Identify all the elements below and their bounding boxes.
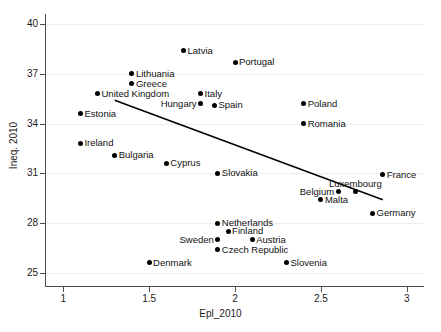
data-point-ireland[interactable] [78,141,83,146]
data-point-austria[interactable] [250,237,255,242]
gridline-y-25 [46,273,424,274]
data-point-latvia[interactable] [181,48,186,53]
y-tick-mark-37 [40,74,45,75]
point-label-italy: Italy [205,89,222,99]
data-point-cyprus[interactable] [164,161,169,166]
x-tick-label-2: 2 [220,294,250,304]
point-label-ireland: Ireland [84,138,113,148]
x-tick-label-1.5: 1.5 [134,294,164,304]
y-tick-label-37: 37 [14,69,38,79]
y-tick-label-wrap: 31 [0,168,38,178]
x-tick-mark-1.5 [149,287,150,292]
y-tick-label-40: 40 [14,19,38,29]
y-axis-title: Ineq. 2010 [8,101,19,191]
y-tick-label-wrap: 28 [0,218,38,228]
point-label-czech-republic: Czech Republic [222,245,289,255]
data-point-poland[interactable] [301,101,306,106]
point-label-latvia: Latvia [188,46,213,56]
x-axis-title: Epl_2010 [0,308,441,319]
x-tick-label-2.5: 2.5 [306,294,336,304]
y-tick-label-wrap: 40 [0,19,38,29]
fit-line [0,0,441,332]
data-point-denmark[interactable] [147,260,152,265]
data-point-united-kingdom[interactable] [95,91,100,96]
point-label-united-kingdom: United Kingdom [102,89,170,99]
y-tick-mark-25 [40,273,45,274]
y-axis-line [45,14,46,286]
point-label-spain: Spain [218,100,242,110]
x-tick-mark-1 [63,287,64,292]
y-tick-label-wrap: 34 [0,119,38,129]
data-point-estonia[interactable] [78,111,83,116]
data-point-netherlands[interactable] [215,221,220,226]
y-tick-label-wrap: 37 [0,69,38,79]
data-point-finland[interactable] [226,229,231,234]
point-label-germany: Germany [377,208,416,218]
y-tick-mark-40 [40,24,45,25]
y-tick-label-28: 28 [14,218,38,228]
y-tick-mark-31 [40,173,45,174]
point-label-malta: Malta [325,195,348,205]
data-point-lithuania[interactable] [129,71,134,76]
scatter-plot: 252831343740 11.522.53 LatviaPortugalLit… [0,0,441,332]
data-point-italy[interactable] [198,91,203,96]
x-tick-mark-2.5 [321,287,322,292]
point-label-denmark: Denmark [153,258,192,268]
y-tick-mark-34 [40,124,45,125]
point-label-poland: Poland [308,99,338,109]
point-label-romania: Romania [308,119,346,129]
point-label-text: Hungary [161,99,197,109]
point-label-cyprus: Cyprus [170,158,200,168]
data-point-slovakia[interactable] [215,171,220,176]
y-tick-label-25: 25 [14,268,38,278]
x-tick-label-3: 3 [392,294,422,304]
x-tick-mark-2 [235,287,236,292]
y-tick-mark-28 [40,223,45,224]
gridline-y-37 [46,74,424,75]
data-point-portugal[interactable] [233,60,238,65]
data-point-slovenia[interactable] [284,260,289,265]
data-point-germany[interactable] [370,211,375,216]
point-label-france: France [387,170,417,180]
point-label-estonia: Estonia [84,109,116,119]
data-point-malta[interactable] [318,197,323,202]
data-point-romania[interactable] [301,121,306,126]
x-tick-mark-3 [407,287,408,292]
point-label-slovenia: Slovenia [291,258,327,268]
gridline-y-40 [46,24,424,25]
point-label-text: Sweden [179,235,213,245]
data-point-spain[interactable] [212,103,217,108]
point-label-portugal: Portugal [239,57,274,67]
x-tick-label-1: 1 [48,294,78,304]
point-label-bulgaria: Bulgaria [119,150,154,160]
y-tick-label-wrap: 25 [0,268,38,278]
data-point-greece[interactable] [129,81,134,86]
gridline-y-34 [46,124,424,125]
point-label-slovakia: Slovakia [222,168,258,178]
data-point-bulgaria[interactable] [112,153,117,158]
data-point-czech-republic[interactable] [215,247,220,252]
